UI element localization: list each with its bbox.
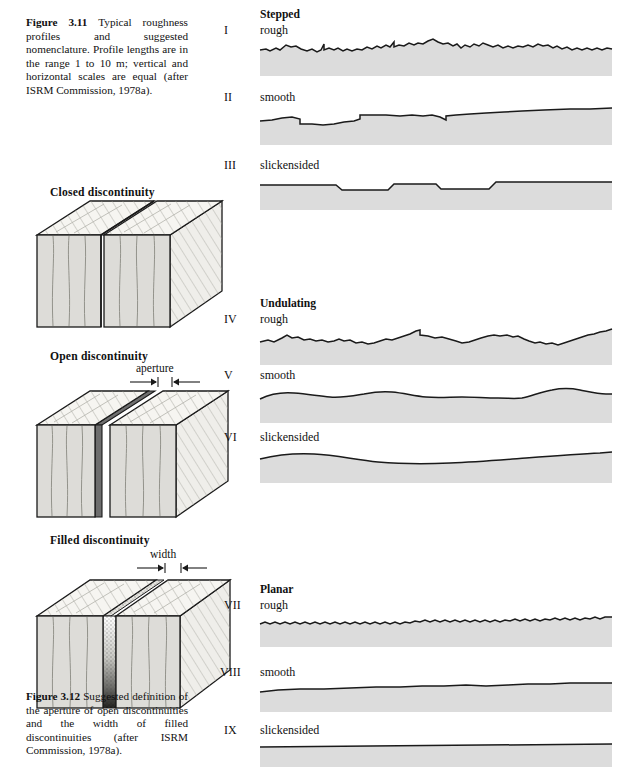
profile-numeral-IV: IV	[224, 312, 237, 327]
profile-graphic-VI	[260, 447, 612, 483]
profile-numeral-V: V	[224, 368, 233, 383]
width-annotation-label: width	[150, 548, 176, 560]
profile-numeral-I: I	[224, 23, 228, 38]
profile-label-IV: rough	[260, 312, 288, 327]
profile-graphic-IX	[260, 740, 612, 767]
figure-3-11-caption: Figure 3.11 Typical roughness profiles a…	[26, 16, 188, 98]
figure-3-12-label: Figure 3.12	[26, 690, 80, 702]
profile-numeral-VII: VII	[224, 598, 241, 613]
profile-label-V: smooth	[260, 368, 295, 383]
group-heading-planar: Planar	[260, 583, 294, 596]
profile-graphic-III	[260, 176, 612, 210]
profile-label-VII: rough	[260, 598, 288, 613]
group-heading-stepped: Stepped	[260, 8, 300, 21]
block-heading-open: Open discontinuity	[50, 350, 148, 363]
profile-numeral-II: II	[224, 90, 232, 105]
profile-graphic-IV	[260, 327, 612, 365]
profile-graphic-V	[260, 385, 612, 423]
profile-numeral-VIII: VIII	[220, 665, 241, 680]
profile-label-VI: slickensided	[260, 430, 319, 445]
profile-label-I: rough	[260, 23, 288, 38]
figure-3-11-label: Figure 3.11	[26, 16, 87, 28]
profile-label-VIII: smooth	[260, 665, 295, 680]
profile-graphic-II	[260, 107, 612, 145]
figure-3-12-caption: Figure 3.12 Suggested definition of the …	[26, 690, 188, 758]
group-heading-undulating: Undulating	[260, 297, 316, 310]
block-diagram-closed	[34, 196, 240, 336]
profile-graphic-I	[260, 38, 612, 76]
profile-numeral-VI: VI	[224, 430, 237, 445]
profile-label-III: slickensided	[260, 158, 319, 173]
block-heading-filled: Filled discontinuity	[50, 534, 150, 547]
profile-numeral-III: III	[224, 158, 236, 173]
profile-graphic-VIII	[260, 679, 612, 712]
profile-label-IX: slickensided	[260, 723, 319, 738]
block-diagram-open	[34, 386, 240, 526]
aperture-annotation-label: aperture	[136, 362, 174, 374]
profile-label-II: smooth	[260, 90, 295, 105]
profile-numeral-IX: IX	[224, 723, 237, 738]
profile-graphic-VII	[260, 614, 612, 647]
